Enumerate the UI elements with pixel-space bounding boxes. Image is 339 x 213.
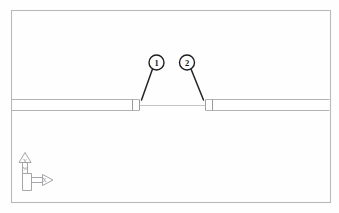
cad-canvas[interactable]: 1 2 Y X W (0, 0, 339, 213)
wall-segment-left[interactable] (12, 100, 140, 111)
callout-bubble-1[interactable]: 1 (149, 55, 164, 70)
callout-bubble-2[interactable]: 2 (180, 55, 195, 70)
wall-segment-right[interactable] (206, 100, 330, 111)
callout-leader-1 (142, 69, 153, 100)
ucs-x-axis-label: X (43, 177, 47, 183)
callout-bubble-2-label: 2 (185, 58, 189, 68)
ucs-world-label: W (23, 166, 28, 171)
callout-leader-2 (191, 69, 204, 100)
callout-bubble-1-label: 1 (154, 58, 158, 68)
cad-drawing-screenshot: 1 2 Y X W (0, 0, 339, 213)
ucs-y-axis-label: Y (23, 158, 27, 164)
ucs-x-axis: X (32, 175, 54, 186)
ucs-icon[interactable]: Y X W (19, 153, 53, 191)
drawing-border (12, 11, 331, 203)
